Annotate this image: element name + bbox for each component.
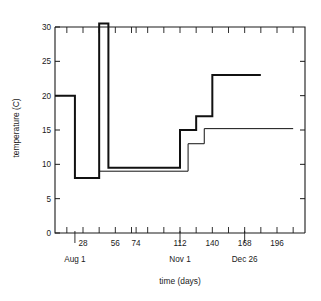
x-secondary-label: Aug 1 — [64, 255, 86, 264]
x-axis-secondary-labels: Aug 1Nov 1Dec 26 — [64, 231, 258, 264]
y-axis-tick-labels: 051015202530 — [42, 23, 52, 238]
y-tick-label: 20 — [42, 92, 52, 101]
y-tick-label: 5 — [46, 195, 51, 204]
y-tick-label: 10 — [42, 160, 52, 169]
x-tick-label: 140 — [205, 239, 219, 248]
y-tick-label: 15 — [42, 126, 52, 135]
data-series — [55, 24, 293, 179]
chart-canvas: 051015202530 285674112140168196 Aug 1Nov… — [0, 0, 321, 301]
series-line-wedgewood-iris — [99, 129, 293, 172]
x-tick-label: 74 — [132, 239, 142, 248]
x-axis-tick-labels: 285674112140168196 — [78, 239, 284, 248]
series-line-tulip — [55, 24, 261, 179]
y-axis-ticks — [55, 27, 60, 233]
x-axis-title: time (days) — [159, 276, 201, 286]
top-axis-ticks — [67, 27, 293, 33]
x-secondary-label: Dec 26 — [232, 255, 258, 264]
y-tick-label: 30 — [42, 23, 52, 32]
x-tick-label: 56 — [111, 239, 121, 248]
right-axis-ticks — [300, 61, 305, 198]
chart-figure: 051015202530 285674112140168196 Aug 1Nov… — [0, 0, 321, 301]
y-tick-label: 0 — [46, 229, 51, 238]
y-tick-label: 25 — [42, 57, 52, 66]
x-tick-label: 196 — [270, 239, 284, 248]
x-tick-label: 28 — [78, 239, 88, 248]
x-secondary-label: Nov 1 — [169, 255, 191, 264]
y-axis-title: temperature (C) — [11, 98, 21, 157]
